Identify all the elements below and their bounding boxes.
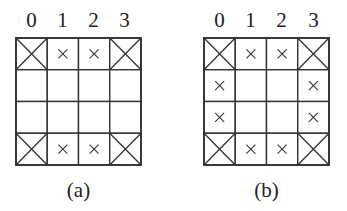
column-label-3: 3 <box>109 8 140 32</box>
grid-cell <box>267 102 298 134</box>
grid-cell <box>79 102 110 134</box>
diagram-b: 0 1 2 3 (b) <box>204 0 330 211</box>
grid-b <box>204 38 329 165</box>
caption-a: (a) <box>16 177 141 203</box>
grid-cell <box>110 102 141 134</box>
grid-cell <box>16 70 47 102</box>
column-label-0: 0 <box>204 8 235 32</box>
column-label-1: 1 <box>235 8 266 32</box>
grid-svg <box>203 37 330 166</box>
column-label-2: 2 <box>266 8 297 32</box>
grid-cell <box>235 70 266 102</box>
grid-cell <box>110 70 141 102</box>
grid-cell <box>79 70 110 102</box>
caption-b: (b) <box>204 177 329 203</box>
grid-a <box>16 38 141 165</box>
column-label-0: 0 <box>16 8 47 32</box>
column-label-1: 1 <box>47 8 78 32</box>
column-label-2: 2 <box>78 8 109 32</box>
diagram-a: 0 1 2 3 (a) <box>16 0 141 211</box>
grid-cell <box>267 70 298 102</box>
grid-cell <box>47 102 78 134</box>
grid-svg <box>15 37 142 166</box>
grid-cell <box>235 102 266 134</box>
column-label-3: 3 <box>298 8 329 32</box>
grid-cell <box>47 70 78 102</box>
grid-cell <box>16 102 47 134</box>
